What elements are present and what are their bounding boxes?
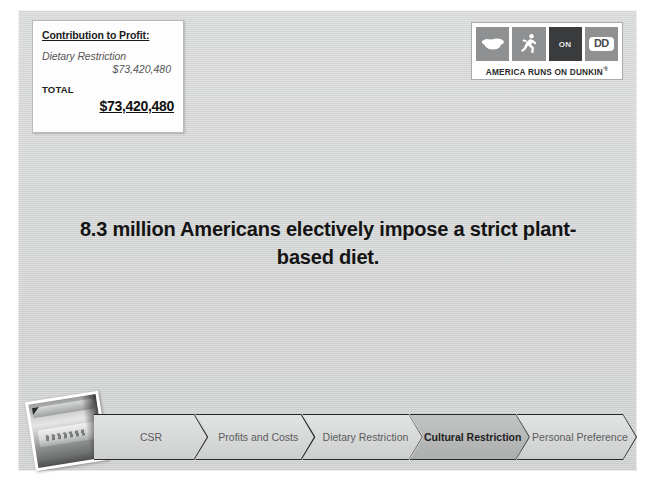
dunkin-logo: ON DD AMERICA RUNS ON DUNKIN'® (471, 22, 623, 80)
process-step-label: Dietary Restriction (323, 431, 409, 443)
logo-trademark: '® (603, 66, 608, 72)
logo-tagline: AMERICA RUNS ON DUNKIN'® (478, 66, 616, 77)
process-step-personal-preference[interactable]: Personal Preference (517, 414, 637, 460)
logo-tile-row: ON DD (476, 27, 618, 61)
process-step-profits-and-costs[interactable]: Profits and Costs (195, 414, 315, 460)
on-tile: ON (549, 27, 582, 61)
process-step-label: Profits and Costs (218, 431, 298, 443)
dd-tile-label: DD (589, 37, 614, 51)
headline-text: 8.3 million Americans electively impose … (78, 216, 578, 271)
process-chevron-bar: CSR Profits and Costs Dietary Restrictio… (94, 414, 624, 460)
contribution-item-value: $73,420,480 (42, 63, 174, 75)
runner-icon (512, 27, 545, 61)
contribution-to-profit-box: Contribution to Profit: Dietary Restrict… (32, 20, 184, 133)
contribution-total-value: $73,420,480 (42, 98, 174, 114)
process-step-cultural-restriction[interactable]: Cultural Restriction (410, 414, 530, 460)
contribution-item-label: Dietary Restriction (42, 50, 174, 62)
dd-tile: DD (585, 27, 618, 61)
slide-canvas: Contribution to Profit: Dietary Restrict… (18, 10, 637, 471)
process-step-csr[interactable]: CSR (94, 414, 208, 460)
usa-map-icon (476, 27, 509, 61)
process-step-label: CSR (140, 431, 162, 443)
contribution-box-title: Contribution to Profit: (42, 29, 174, 41)
process-step-dietary-restriction[interactable]: Dietary Restriction (302, 414, 422, 460)
photo-corner-mark (32, 407, 40, 415)
logo-tagline-text: AMERICA RUNS ON DUNKIN (486, 67, 603, 77)
contribution-total-label: TOTAL (42, 84, 174, 95)
process-step-label: Personal Preference (532, 431, 628, 443)
on-tile-label: ON (559, 40, 572, 49)
process-step-label: Cultural Restriction (424, 431, 521, 443)
